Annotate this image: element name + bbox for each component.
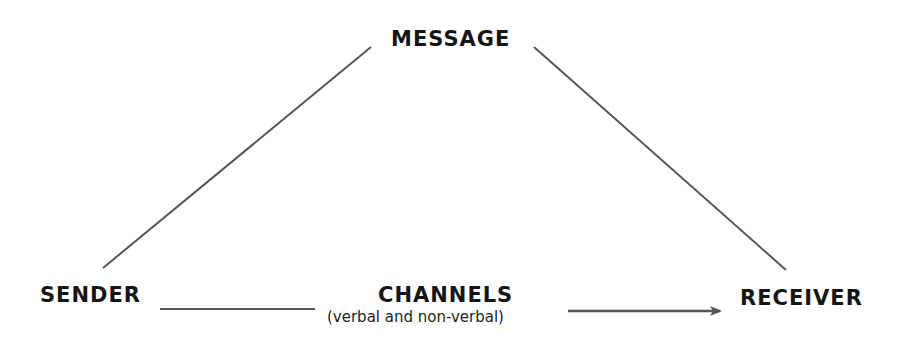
node-sender: SENDER [40,283,141,307]
node-message: MESSAGE [391,27,510,51]
edge-sender-message [103,47,371,268]
node-channels: CHANNELS [378,283,513,307]
communication-diagram: MESSAGE SENDER CHANNELS (verbal and non-… [0,0,909,355]
node-receiver: RECEIVER [740,286,863,310]
edge-message-receiver [534,47,786,270]
node-channels-subtitle: (verbal and non-verbal) [327,308,504,326]
